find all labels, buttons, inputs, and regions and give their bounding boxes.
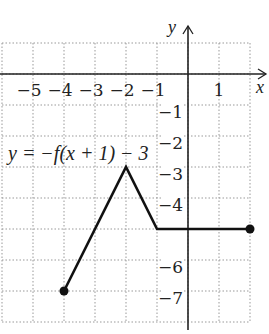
x-axis-label: x [256,78,264,96]
endpoint-dot [60,287,69,296]
x-tick-label: −5 [16,80,41,100]
graph: −5−4−3−2−11−1−2−3−4−6−7 [0,0,269,334]
x-tick-label: −2 [109,80,134,100]
x-tick-label: −1 [140,80,165,100]
y-tick-label: −3 [158,164,183,184]
equation-label: y = −f(x + 1) − 3 [8,143,149,163]
x-tick-label: 1 [214,80,225,100]
y-tick-label: −2 [158,133,183,153]
y-tick-label: −4 [158,195,183,215]
endpoint-dot [246,225,255,234]
y-tick-label: −6 [158,257,183,277]
graph-canvas: −5−4−3−2−11−1−2−3−4−6−7 [0,0,269,334]
y-tick-label: −7 [158,288,183,308]
x-tick-label: −4 [47,80,72,100]
y-axis-label: y [168,18,176,36]
y-tick-label: −1 [158,102,183,122]
x-tick-label: −3 [78,80,103,100]
